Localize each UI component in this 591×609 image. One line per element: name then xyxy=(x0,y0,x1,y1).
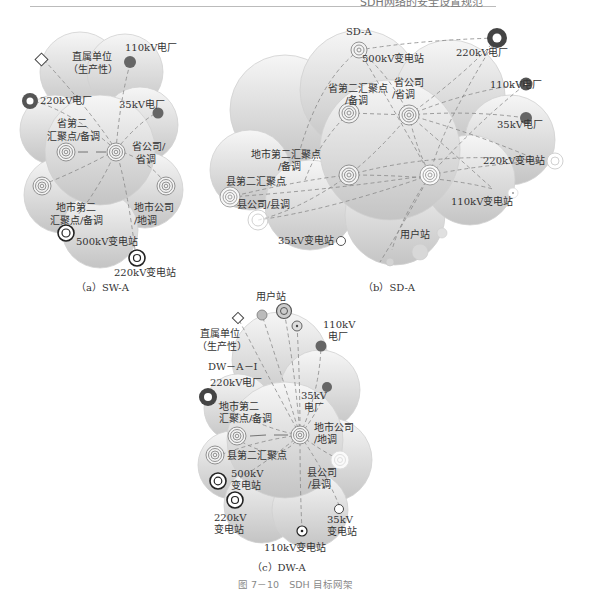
plant-220kv-b-icon xyxy=(487,28,507,48)
user-station-b-icon xyxy=(437,228,447,238)
prov-company-icon xyxy=(107,143,125,161)
user-station-b-icon-3 xyxy=(386,258,394,266)
label-plant-220-c: 220kV电厂 xyxy=(210,376,262,388)
title-b: SD-A xyxy=(346,26,372,37)
label-plant-35: 35kV电厂 xyxy=(119,98,165,110)
label-plant-110-b: 110kV电厂 xyxy=(490,78,542,90)
county-node-icon xyxy=(33,177,51,195)
figure-caption: 图 7－10 SDH 目标网架 xyxy=(238,579,353,590)
sub-110kv-c-icon xyxy=(297,526,307,536)
plant-110kv-c-icon xyxy=(316,341,327,352)
label-plant-220: 220kV电厂 xyxy=(40,94,92,106)
city-company-b-icon xyxy=(420,165,440,185)
sub-35kv-b-icon xyxy=(337,237,346,246)
sub-500kv-icon xyxy=(58,225,74,241)
city-company-icon xyxy=(157,177,175,195)
panel-c: 用户站 直属单位（生产性） 110kV电厂 DW－A－Ⅰ 220kV电厂 35k… xyxy=(197,290,372,573)
label-sub-35-b: 35kV变电站 xyxy=(278,234,334,246)
city-second-b-icon xyxy=(339,165,359,185)
prov-second-b-icon xyxy=(339,103,359,123)
label-plant-110: 110kV电厂 xyxy=(125,41,177,53)
caption-b: （b）SD-A xyxy=(363,282,416,293)
plant-220kv-c-icon xyxy=(199,388,217,406)
label-sub-220-c: 220kV变电站 xyxy=(214,512,247,535)
label-plant-110-c: 110kV电厂 xyxy=(323,319,356,342)
subtitle-c: DW－A－Ⅰ xyxy=(208,361,258,372)
sub-220kv-c-icon xyxy=(227,492,243,508)
county-second-c-icon xyxy=(206,446,224,464)
label-sub-220-b: 220kV变电站 xyxy=(483,154,545,166)
city-company-c-icon xyxy=(291,426,309,444)
user-station-b-icon-2 xyxy=(412,244,428,260)
user-station-c-icon-1 xyxy=(257,310,267,320)
label-sub-500-b: 500kV变电站 xyxy=(362,52,424,64)
prov-company-b-icon xyxy=(399,105,419,125)
prov-second-icon xyxy=(57,143,75,161)
label-plant-220-b: 220kV电厂 xyxy=(456,46,508,58)
plant-110kv-icon xyxy=(124,56,136,68)
label-county-second-c: 县第二汇聚点 xyxy=(227,449,287,461)
panel-b: SD-A 500kV变电站 220kV电厂 110kV电厂 35kV电厂 省第二… xyxy=(210,26,563,293)
label-county-company-b: 县公司/县调 xyxy=(237,199,290,210)
sdh-diagram: 直属单位（生产性） 110kV电厂 220kV电厂 35kV电厂 省第二汇聚点/… xyxy=(0,0,591,609)
sub-220kv-icon xyxy=(129,250,145,266)
user-station-c-icon-3 xyxy=(292,321,302,331)
panel-a: 直属单位（生产性） 110kV电厂 220kV电厂 35kV电厂 省第二汇聚点/… xyxy=(20,32,183,293)
diamond-c-icon xyxy=(232,312,243,323)
caption-a: （a）SW-A xyxy=(76,282,130,293)
label-county-second-b: 县第二汇聚点 xyxy=(226,175,286,187)
caption-c: （c）DW-A xyxy=(252,562,307,573)
sub-500kv-c-icon xyxy=(210,473,226,489)
label-sub-500-c: 500kV变电站 xyxy=(231,468,264,491)
label-user-station-c: 用户站 xyxy=(256,290,286,302)
label-sub-500: 500kV变电站 xyxy=(76,235,138,247)
label-sub-110-c: 110kV变电站 xyxy=(264,541,326,553)
label-sub-110-b: 110kV变电站 xyxy=(451,195,513,207)
city-second-c-icon xyxy=(228,427,246,445)
label-sub-35-c: 35kV变电站 xyxy=(327,514,357,537)
label-plant-35-b: 35kV电厂 xyxy=(497,118,543,130)
county-company-b-icon xyxy=(248,210,268,230)
sub-220kv-b-icon xyxy=(547,153,563,169)
label-user-station-b: 用户站 xyxy=(400,228,430,240)
sub-35kv-c-icon xyxy=(335,505,344,514)
label-sub-220: 220kV变电站 xyxy=(114,266,176,278)
user-station-c-icon-2 xyxy=(277,304,292,319)
label-plant-35-c: 35kV电厂 xyxy=(301,390,328,413)
